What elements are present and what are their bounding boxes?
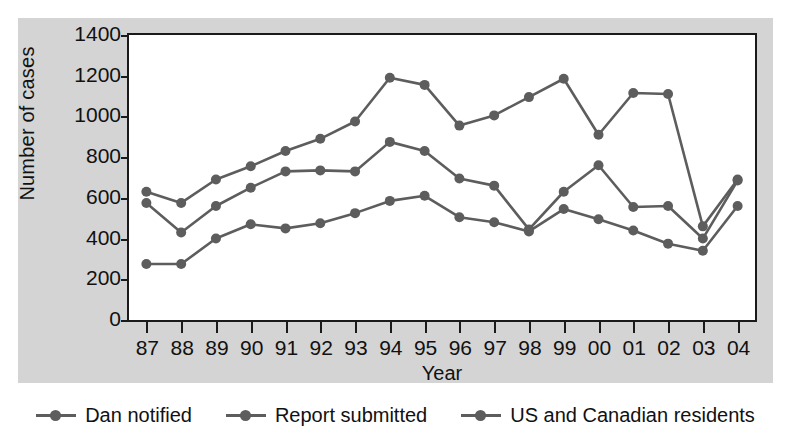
plot-area (127, 33, 757, 322)
data-point-marker (559, 74, 569, 84)
data-point-marker (385, 73, 395, 83)
data-point-marker (594, 160, 604, 170)
data-point-marker (211, 234, 221, 244)
data-point-marker (246, 161, 256, 171)
x-axis-tick-mark (599, 322, 601, 333)
data-point-marker (141, 259, 151, 269)
line-dot-marker-icon (36, 408, 76, 422)
x-axis-tick-mark (251, 322, 253, 333)
data-point-marker (594, 214, 604, 224)
data-point-marker (141, 198, 151, 208)
data-point-marker (420, 80, 430, 90)
series-canvas (129, 35, 755, 320)
x-axis-tick-mark (390, 322, 392, 333)
data-point-marker (315, 218, 325, 228)
data-point-marker (315, 134, 325, 144)
data-point-marker (698, 234, 708, 244)
data-point-marker (211, 175, 221, 185)
x-axis-tick-mark (564, 322, 566, 333)
data-point-marker (454, 212, 464, 222)
data-point-marker (246, 183, 256, 193)
data-point-marker (176, 259, 186, 269)
series-line (146, 142, 737, 239)
data-point-marker (628, 202, 638, 212)
y-axis-ticks: 0200400600800100012001400 (55, 33, 121, 322)
legend-item[interactable]: Report submitted (226, 404, 427, 427)
data-point-marker (454, 121, 464, 131)
data-point-marker (489, 217, 499, 227)
data-point-marker (281, 223, 291, 233)
series-line (146, 78, 737, 227)
data-point-marker (628, 88, 638, 98)
data-point-marker (489, 110, 499, 120)
data-point-marker (698, 246, 708, 256)
x-axis-tick-mark (286, 322, 288, 333)
y-axis-tick-label: 200 (59, 266, 121, 290)
data-point-marker (176, 198, 186, 208)
line-chart-figure: Number of cases 020040060080010001200140… (0, 0, 791, 438)
y-axis-tick-label: 0 (59, 307, 121, 331)
data-point-marker (628, 225, 638, 235)
data-point-marker (663, 239, 673, 249)
legend-item[interactable]: Dan notified (36, 404, 192, 427)
legend-item-label: Dan notified (85, 404, 192, 427)
data-point-marker (663, 201, 673, 211)
chart-legend: Dan notifiedReport submittedUS and Canad… (0, 392, 791, 438)
data-point-marker (141, 187, 151, 197)
data-point-marker (315, 165, 325, 175)
x-axis-tick-mark (668, 322, 670, 333)
x-axis-tick-mark (355, 322, 357, 333)
y-axis-tick-label: 1200 (59, 63, 121, 87)
data-point-marker (663, 89, 673, 99)
data-point-marker (420, 146, 430, 156)
legend-item-label: Report submitted (275, 404, 427, 427)
data-point-marker (281, 146, 291, 156)
data-point-marker (350, 117, 360, 127)
x-axis-tick-mark (494, 322, 496, 333)
data-point-marker (246, 219, 256, 229)
y-axis-tick-label: 600 (59, 185, 121, 209)
data-point-marker (733, 201, 743, 211)
legend-item-label: US and Canadian residents (510, 404, 755, 427)
data-point-marker (176, 227, 186, 237)
x-axis-tick-mark (320, 322, 322, 333)
x-axis-tick-mark (738, 322, 740, 333)
x-axis-tick-mark (181, 322, 183, 333)
y-axis-tick-label: 1400 (59, 22, 121, 46)
data-point-marker (454, 174, 464, 184)
line-dot-marker-icon (226, 408, 266, 422)
data-point-marker (698, 221, 708, 231)
y-axis-tick-label: 1000 (59, 103, 121, 127)
data-point-marker (420, 191, 430, 201)
data-point-marker (211, 201, 221, 211)
x-axis-tick-mark (146, 322, 148, 333)
y-axis-tick-label: 800 (59, 144, 121, 168)
x-axis-tick-mark (425, 322, 427, 333)
data-point-marker (594, 130, 604, 140)
data-point-marker (524, 92, 534, 102)
legend-item[interactable]: US and Canadian residents (461, 404, 755, 427)
x-axis-title: Year (127, 362, 757, 385)
data-point-marker (489, 181, 499, 191)
y-axis-title: Number of cases (16, 9, 39, 239)
line-dot-marker-icon (461, 408, 501, 422)
x-axis-tick-mark (633, 322, 635, 333)
data-point-marker (733, 176, 743, 186)
data-point-marker (559, 187, 569, 197)
x-axis-tick-mark (459, 322, 461, 333)
data-point-marker (385, 137, 395, 147)
x-axis-ticks: 878889909192939495969798990001020304 (127, 322, 757, 336)
data-point-marker (350, 208, 360, 218)
x-axis-tick-mark (216, 322, 218, 333)
x-axis-tick-mark (703, 322, 705, 333)
data-point-marker (559, 204, 569, 214)
data-point-marker (281, 166, 291, 176)
data-point-marker (385, 196, 395, 206)
x-axis-tick-mark (529, 322, 531, 333)
data-point-marker (350, 166, 360, 176)
y-axis-tick-label: 400 (59, 226, 121, 250)
x-axis-tick-label: 04 (716, 336, 762, 360)
data-point-marker (524, 226, 534, 236)
